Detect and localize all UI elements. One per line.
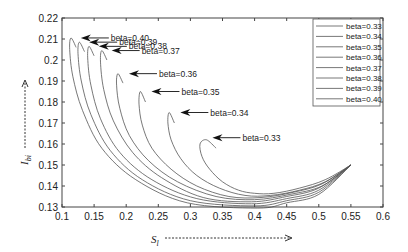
y-tick-label: 0.14 <box>39 181 59 192</box>
y-tick-label: 0.22 <box>39 13 59 24</box>
x-tick-label: 0.5 <box>312 211 326 222</box>
legend-entry: beta=0.37 <box>346 64 382 73</box>
y-axis-label: Ibi <box>18 80 33 166</box>
x-tick-label: 0.1 <box>55 211 69 222</box>
legend-entry: beta=0.38 <box>346 74 382 83</box>
y-tick-label: 0.2 <box>44 55 58 66</box>
annotations: beta=0.40beta=0.39beta=0.38beta=0.37beta… <box>81 33 281 143</box>
annotation: beta=0.34 <box>180 108 248 118</box>
legend-entry: beta=0.39 <box>346 84 382 93</box>
y-tick-label: 0.19 <box>39 76 59 87</box>
x-tick-label: 0.45 <box>277 211 297 222</box>
x-axis-label: Sl <box>151 233 292 248</box>
x-tick-label: 0.25 <box>149 211 169 222</box>
x-tick-label: 0.2 <box>119 211 133 222</box>
annotation: beta=0.33 <box>212 133 280 143</box>
annotation-label: beta=0.36 <box>159 69 197 79</box>
legend: beta=0.33beta=0.34beta=0.35beta=0.36beta… <box>313 19 382 106</box>
legend-entry: beta=0.33 <box>346 22 382 31</box>
x-tick-label: 0.4 <box>248 211 262 222</box>
series-line-beta-0-40 <box>70 38 351 208</box>
svg-text:Ibi: Ibi <box>18 155 33 166</box>
annotation: beta=0.35 <box>151 87 219 97</box>
series-line-beta-0-38 <box>88 46 351 203</box>
chart: beta=0.40beta=0.39beta=0.38beta=0.37beta… <box>0 0 408 252</box>
y-tick-label: 0.18 <box>39 97 59 108</box>
series-line-beta-0-34 <box>168 113 351 197</box>
y-tick-label: 0.17 <box>39 118 59 129</box>
legend-entry: beta=0.35 <box>346 43 382 52</box>
legend-entry: beta=0.40 <box>346 95 382 104</box>
annotation-label: beta=0.35 <box>181 87 219 97</box>
annotation: beta=0.36 <box>129 69 197 79</box>
legend-entry: beta=0.34 <box>346 32 382 41</box>
x-tick-label: 0.55 <box>341 211 361 222</box>
annotation-label: beta=0.34 <box>210 108 248 118</box>
y-tick-label: 0.13 <box>39 202 59 213</box>
y-tick-label: 0.15 <box>39 160 59 171</box>
legend-entry: beta=0.36 <box>346 53 382 62</box>
series-line-beta-0-39 <box>78 42 351 206</box>
annotation-label: beta=0.33 <box>242 133 280 143</box>
y-tick-label: 0.16 <box>39 139 59 150</box>
series-lines <box>70 38 351 208</box>
y-tick-label: 0.21 <box>39 34 59 45</box>
x-tick-label: 0.15 <box>84 211 104 222</box>
x-tick-label: 0.3 <box>183 211 197 222</box>
x-tick-label: 0.35 <box>213 211 233 222</box>
svg-text:Sl: Sl <box>151 233 160 248</box>
x-tick-label: 0.6 <box>376 211 390 222</box>
annotation-label: beta=0.37 <box>142 46 180 56</box>
